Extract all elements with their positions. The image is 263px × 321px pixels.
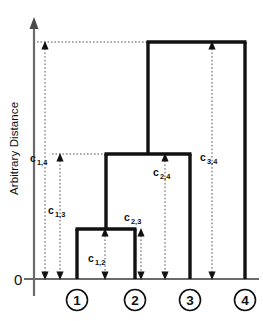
distance-label-sub-c-1-3: 1,3: [55, 210, 65, 219]
distance-label-base-c-3-4: c: [200, 151, 206, 163]
guide-lines-group: [37, 42, 148, 154]
leaf-labels-group: 1 2 3 4: [67, 290, 256, 311]
measure-arrowhead-top-c-2-3: [137, 228, 144, 237]
leaf-label-text-3: 3: [186, 293, 194, 308]
leaf-label-4: 4: [235, 290, 256, 311]
distance-label-base-c-1-2: c: [88, 252, 94, 264]
distance-label-sub-c-3-4: 3,4: [207, 157, 218, 166]
leaf-label-1: 1: [67, 290, 88, 311]
axis-label-group: Arbitrary Distance 0: [8, 102, 22, 288]
dendrogram-tree: [76, 42, 247, 279]
measure-c-2-3: [137, 228, 144, 280]
dendrogram-figure: Arbitrary Distance 0: [0, 0, 263, 321]
distance-label-sub-c-1-4: 1,4: [37, 158, 48, 167]
vertical-axis-arrowhead: [30, 17, 39, 29]
distance-label-sub-c-2-4: 2,4: [160, 172, 171, 181]
distance-label-c-1-2: c 1,2: [88, 252, 105, 267]
distance-label-c-1-3: c 1,3: [48, 204, 65, 219]
distance-label-base-c-1-3: c: [48, 204, 54, 216]
y-axis-zero-label: 0: [14, 271, 22, 288]
leaf-label-text-1: 1: [73, 293, 81, 308]
leaf-label-2: 2: [125, 290, 146, 311]
distance-label-c-3-4: c 3,4: [200, 151, 218, 166]
distance-label-c-1-4: c 1,4: [30, 152, 48, 167]
leaf-label-text-2: 2: [131, 293, 139, 308]
leaf-label-text-4: 4: [241, 293, 249, 308]
distance-label-sub-c-2-3: 2,3: [131, 217, 141, 226]
distance-label-c-2-3: c 2,3: [124, 211, 141, 226]
measure-c-1-2: [101, 228, 108, 280]
distance-label-c-2-4: c 2,4: [153, 166, 171, 181]
leaf-label-3: 3: [180, 290, 201, 311]
dendrogram-canvas: Arbitrary Distance 0: [0, 0, 263, 321]
y-axis-title: Arbitrary Distance: [8, 102, 20, 195]
distance-label-sub-c-1-2: 1,2: [95, 258, 105, 267]
distance-label-base-c-1-4: c: [30, 152, 36, 164]
distance-label-base-c-2-4: c: [153, 166, 159, 178]
distance-label-base-c-2-3: c: [124, 211, 130, 223]
